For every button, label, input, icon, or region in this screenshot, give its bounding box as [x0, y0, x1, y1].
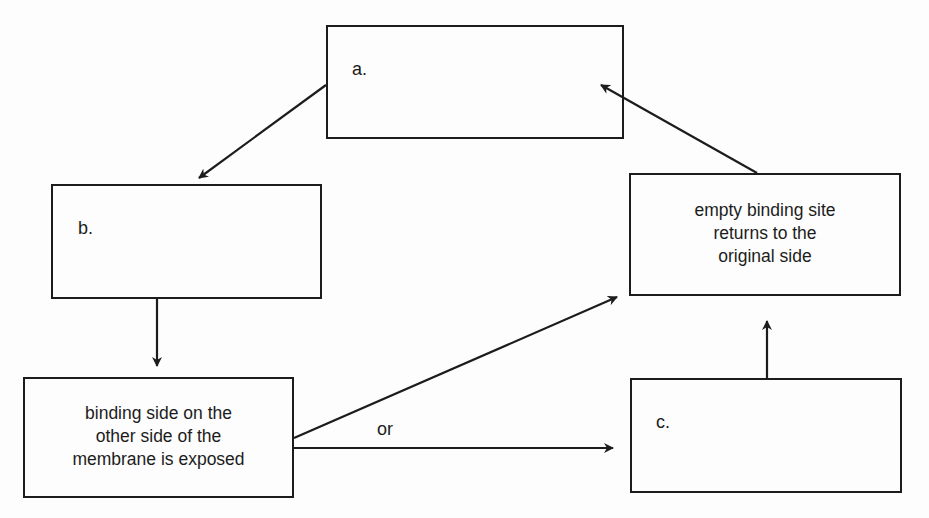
- node-c: c.: [630, 378, 902, 493]
- node-binding-side-exposed-text: binding side on the other side of the me…: [25, 402, 292, 471]
- node-b: b.: [51, 184, 322, 299]
- text-line: empty binding site: [631, 199, 899, 222]
- arrow-returns-to-a: [601, 85, 757, 173]
- text-line: original side: [631, 245, 899, 268]
- text-line: returns to the: [631, 222, 899, 245]
- node-a: a.: [326, 25, 624, 139]
- arrow-a-to-b: [199, 85, 326, 178]
- text-line: membrane is exposed: [25, 448, 292, 471]
- node-b-label: b.: [78, 218, 93, 238]
- text-line: binding side on the: [25, 402, 292, 425]
- text-line: other side of the: [25, 425, 292, 448]
- node-binding-side-exposed: binding side on the other side of the me…: [23, 377, 294, 498]
- node-binding-site-returns: empty binding site returns to the origin…: [629, 173, 901, 296]
- or-label: or: [377, 419, 393, 440]
- node-c-label: c.: [656, 412, 670, 432]
- diagram-canvas: a. b. binding side on the other side of …: [0, 0, 929, 518]
- node-binding-site-returns-text: empty binding site returns to the origin…: [631, 199, 899, 268]
- arrow-exposed-to-returns: [294, 297, 617, 438]
- node-a-label: a.: [352, 59, 367, 79]
